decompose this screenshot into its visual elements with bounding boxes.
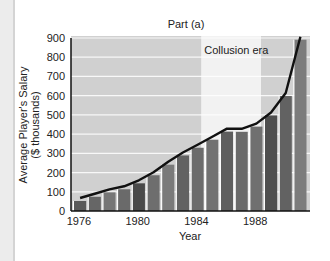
bar-1978 <box>103 192 115 211</box>
bar-1991 <box>294 40 306 211</box>
y-tick-label: 900 <box>47 32 65 44</box>
bar-1977 <box>89 197 101 211</box>
x-tick-label: 1988 <box>243 215 267 227</box>
bar-1976 <box>74 201 86 211</box>
x-tick-label: 1976 <box>67 215 91 227</box>
bar-1979 <box>118 189 130 211</box>
bar-1985 <box>206 140 218 211</box>
bar-1982 <box>162 165 174 211</box>
y-tick-label: 700 <box>47 70 65 82</box>
y-tick-label: 300 <box>47 147 65 159</box>
collusion-era-label: Collusion era <box>204 44 269 56</box>
bar-1990 <box>280 96 292 211</box>
bar-1980 <box>133 183 145 211</box>
y-tick-label: 400 <box>47 128 65 140</box>
y-tick-label: 500 <box>47 109 65 121</box>
bar-1986 <box>221 132 233 211</box>
y-tick-label: 800 <box>47 51 65 63</box>
y-tick-label: 100 <box>47 186 65 198</box>
x-tick-label: 1980 <box>126 215 150 227</box>
bar-1987 <box>236 132 248 211</box>
y-tick-label: 200 <box>47 167 65 179</box>
bar-1988 <box>250 127 262 211</box>
bar-1989 <box>265 115 277 211</box>
y-tick-label: 600 <box>47 90 65 102</box>
bar-1983 <box>177 155 189 211</box>
bar-1981 <box>147 175 159 211</box>
bar-1984 <box>192 148 204 211</box>
x-tick-label: 1984 <box>184 215 208 227</box>
y-tick-label: 0 <box>59 205 65 217</box>
bar-chart: 0100200300400500600700800900197619801984… <box>0 0 330 261</box>
